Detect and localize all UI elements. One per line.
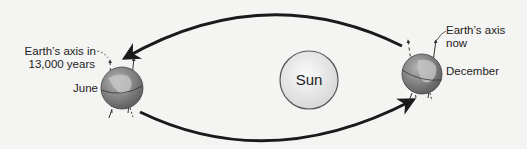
precession-diagram: Sun June Earth’s axis in 13,000 years Ea… bbox=[0, 0, 527, 149]
axis-13000-label-line2: 13,000 years bbox=[29, 58, 96, 70]
diagram-canvas: Sun June Earth’s axis in 13,000 years Ea… bbox=[0, 0, 527, 149]
december-label: December bbox=[446, 65, 499, 77]
june-label: June bbox=[73, 82, 98, 94]
axis-now-label-line1: Earth’s axis bbox=[446, 24, 505, 36]
sun: Sun bbox=[280, 51, 338, 109]
earth-june: June Earth’s axis in 13,000 years bbox=[25, 45, 143, 118]
orbit-arrow-bottom bbox=[140, 100, 413, 141]
earth-december: Earth’s axis now December bbox=[402, 24, 505, 101]
axis-now-label-line2: now bbox=[446, 37, 468, 49]
axis-13000-label-line1: Earth’s axis in bbox=[25, 45, 96, 57]
sun-label: Sun bbox=[296, 71, 323, 88]
orbit-arrow-top bbox=[125, 15, 402, 58]
